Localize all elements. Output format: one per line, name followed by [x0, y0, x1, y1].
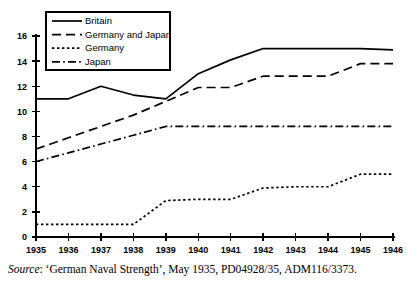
x-tick-label: 1941	[221, 245, 241, 255]
line-chart: 0246810121416193519361937193819391940194…	[0, 0, 417, 260]
x-tick-label: 1943	[286, 245, 306, 255]
x-tick-label: 1935	[26, 245, 46, 255]
series-line-germany-and-japan	[36, 64, 393, 149]
y-tick-label: 0	[22, 232, 27, 242]
y-tick-label: 6	[22, 157, 27, 167]
legend-label-britain: Britain	[85, 15, 112, 26]
y-tick-label: 10	[17, 107, 27, 117]
source-caption: Source: ‘German Naval Strength’, May 193…	[8, 262, 413, 276]
x-tick-label: 1942	[253, 245, 273, 255]
x-tick-label: 1946	[383, 245, 403, 255]
y-tick-label: 16	[17, 31, 27, 41]
legend-label-germany-and-japan: Germany and Japan	[85, 29, 171, 40]
source-text: : ‘German Naval Strength’, May 1935, PD0…	[40, 263, 357, 275]
x-tick-label: 1939	[156, 245, 176, 255]
chart-series	[36, 49, 393, 225]
y-tick-label: 12	[17, 82, 27, 92]
y-tick-label: 4	[22, 182, 27, 192]
y-tick-label: 14	[17, 57, 27, 67]
y-tick-label: 2	[22, 207, 27, 217]
x-tick-label: 1938	[123, 245, 143, 255]
chart-legend: BritainGermany and JapanGermanyJapan	[46, 12, 171, 70]
source-label: Source	[8, 263, 40, 275]
x-tick-label: 1944	[318, 245, 338, 255]
x-tick-label: 1940	[188, 245, 208, 255]
naval-strength-figure: 0246810121416193519361937193819391940194…	[0, 0, 417, 286]
legend-label-japan: Japan	[85, 56, 111, 67]
legend-label-germany: Germany	[85, 42, 124, 53]
y-tick-label: 8	[22, 132, 27, 142]
x-tick-label: 1936	[58, 245, 78, 255]
x-tick-label: 1945	[351, 245, 371, 255]
x-tick-label: 1937	[91, 245, 111, 255]
series-line-germany	[36, 174, 393, 224]
series-line-japan	[36, 126, 393, 161]
